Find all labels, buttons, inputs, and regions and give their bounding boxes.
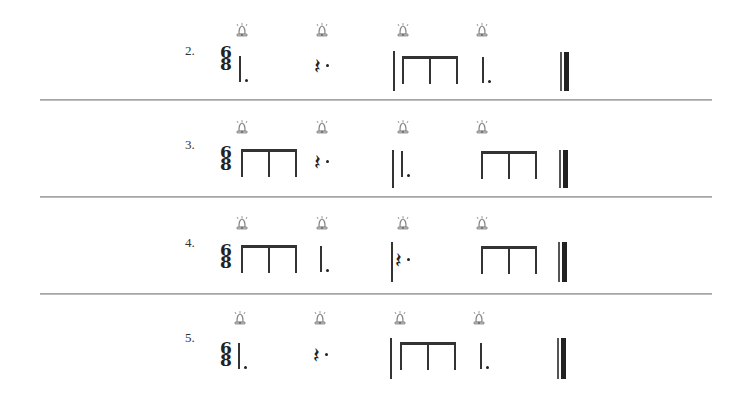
dotted-quarter-rest: 𝄽: [313, 345, 320, 367]
final-barline: [563, 150, 568, 188]
bell-icon: [475, 22, 489, 38]
bell-icon: [233, 310, 247, 326]
exercise-number: 5.: [185, 330, 195, 346]
exercise-number: 3.: [185, 137, 195, 153]
bell-icon: [475, 215, 489, 231]
final-barline: [559, 150, 561, 188]
dotted-quarter-rest: 𝄽: [395, 250, 402, 272]
exercise-5: 5. 6 8 𝄽: [0, 300, 742, 397]
final-barline: [560, 52, 562, 91]
bell-icon: [396, 22, 410, 38]
divider: [40, 293, 712, 295]
bell-icon: [393, 310, 407, 326]
exercise-number: 4.: [185, 235, 195, 251]
bell-icon: [315, 22, 329, 38]
bell-icon: [315, 215, 329, 231]
bell-icon: [472, 310, 486, 326]
three-eighth-notes: [241, 245, 297, 273]
bell-icon: [396, 119, 410, 135]
final-barline: [557, 338, 559, 379]
exercise-2: 2. 6 8 𝄽: [0, 0, 742, 97]
exercise-3: 3. 6 8 𝄽: [0, 105, 742, 202]
bell-icon: [235, 22, 249, 38]
bell-icon: [396, 215, 410, 231]
divider: [40, 99, 712, 101]
barline: [390, 338, 392, 379]
time-signature: 6 8: [219, 46, 233, 70]
bell-icon: [235, 215, 249, 231]
dotted-quarter-rest: 𝄽: [314, 56, 321, 78]
bell-icon: [235, 119, 249, 135]
time-signature: 6 8: [219, 146, 233, 170]
barline: [391, 242, 393, 282]
three-eighth-notes: [400, 342, 456, 370]
time-signature: 6 8: [219, 342, 233, 366]
three-eighth-notes: [241, 149, 297, 177]
final-barline: [562, 242, 567, 282]
bell-icon: [475, 119, 489, 135]
three-eighth-notes: [402, 56, 458, 84]
divider: [40, 196, 712, 198]
bell-icon: [313, 310, 327, 326]
three-eighth-notes: [481, 246, 537, 274]
final-barline: [564, 52, 569, 91]
exercise-number: 2.: [185, 43, 195, 59]
barline: [392, 150, 394, 188]
three-eighth-notes: [481, 151, 537, 179]
barline: [393, 51, 395, 91]
time-signature: 6 8: [219, 244, 233, 268]
bell-icon: [315, 119, 329, 135]
exercise-4: 4. 6 8 𝄽: [0, 200, 742, 297]
final-barline: [561, 338, 566, 379]
dotted-quarter-rest: 𝄽: [314, 152, 321, 174]
final-barline: [558, 242, 560, 282]
